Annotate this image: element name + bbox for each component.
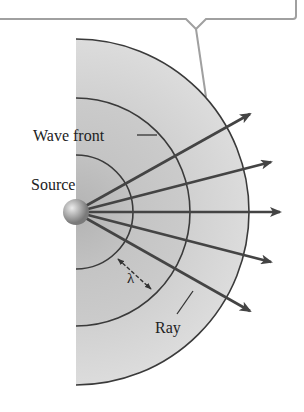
callout-pointer-line (196, 29, 206, 97)
wave-front-label: Wave front (33, 127, 105, 144)
wavelength-label: λ (127, 270, 135, 286)
source-label: Source (31, 176, 75, 193)
ray-label: Ray (155, 319, 181, 337)
wave-front-diagram: Wave front Source λ Ray (0, 0, 304, 412)
source-sphere (63, 199, 89, 225)
